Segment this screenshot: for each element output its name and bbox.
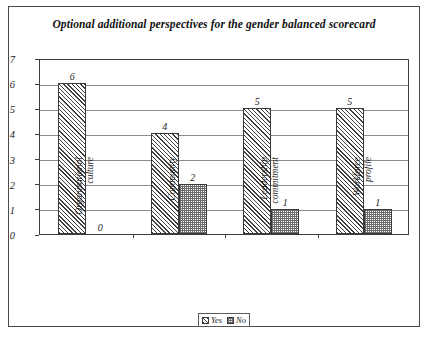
bar-value-label: 1 — [283, 197, 288, 208]
y-axis-tick-mark — [35, 184, 39, 185]
legend-swatch-yes-icon — [202, 317, 209, 324]
bar-value-label: 1 — [375, 197, 380, 208]
category-label-line: profile — [363, 157, 374, 241]
y-axis-tick-mark — [35, 109, 39, 110]
y-axis-tick-label: 2 — [0, 179, 15, 190]
bar-value-label: 5 — [347, 96, 352, 107]
y-axis-tick-label: 1 — [0, 204, 15, 215]
bar-value-label: 0 — [98, 222, 103, 233]
category-label-line: culture — [85, 157, 96, 241]
y-axis-tick-label: 7 — [0, 54, 15, 65]
bar-value-label: 2 — [190, 172, 195, 183]
x-axis-category-label: Community — [167, 157, 183, 241]
bar-value-label: 6 — [70, 71, 75, 82]
y-axis-tick-label: 0 — [0, 230, 15, 241]
category-label-line: commitment — [270, 157, 281, 241]
y-axis-tick-label: 3 — [0, 154, 15, 165]
x-axis-tick-mark — [225, 234, 226, 238]
chart-title: Optional additional perspectives for the… — [9, 18, 419, 30]
x-axis-category-label: Leadershipcommitment — [259, 157, 275, 241]
figure-frame: Optional additional perspectives for the… — [8, 6, 420, 327]
category-label-line: Leadership — [259, 157, 269, 200]
y-axis-tick-label: 5 — [0, 104, 15, 115]
figure-caption-clipped — [10, 333, 240, 340]
y-axis-tick-mark — [35, 134, 39, 135]
gridline — [40, 85, 408, 86]
y-axis-tick-mark — [35, 59, 39, 60]
bar-value-label: 4 — [162, 121, 167, 132]
legend-label-yes: Yes — [211, 315, 222, 325]
legend-item-yes: Yes — [202, 315, 222, 325]
x-axis-tick-mark — [318, 234, 319, 238]
y-axis-tick-mark — [35, 209, 39, 210]
legend-swatch-no-icon — [227, 317, 234, 324]
y-axis-tick-mark — [35, 235, 39, 236]
x-axis-category-label: Workforceprofile — [352, 157, 368, 241]
y-axis-tick-label: 6 — [0, 79, 15, 90]
category-label-line: Workforce — [352, 157, 362, 196]
y-axis-tick-mark — [35, 159, 39, 160]
legend-item-no: No — [227, 315, 246, 325]
y-axis-tick-label: 4 — [0, 129, 15, 140]
bar-value-label: 5 — [255, 96, 260, 107]
category-label-line: Community — [167, 157, 177, 201]
x-axis-category-label: Organisationalculture — [74, 157, 90, 241]
x-axis-tick-mark — [133, 234, 134, 238]
chart-legend: Yes No — [198, 313, 250, 327]
legend-label-no: No — [236, 315, 246, 325]
y-axis-tick-mark — [35, 84, 39, 85]
category-label-line: Organisational — [74, 157, 84, 215]
